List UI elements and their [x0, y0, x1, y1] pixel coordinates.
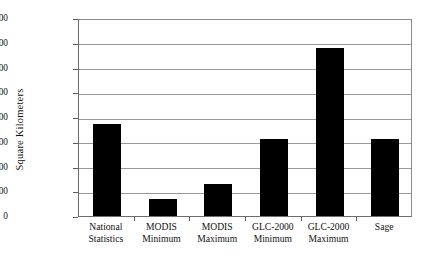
- y-axis-tick-label: 6000000: [0, 64, 8, 73]
- bar: [316, 48, 344, 216]
- x-axis-category-label-line: Maximum: [301, 233, 357, 245]
- x-axis-category-label-line: Minimum: [245, 233, 301, 245]
- y-axis-tick-label: 5000000: [0, 88, 8, 97]
- x-axis-category-label-line: Minimum: [134, 233, 190, 245]
- y-axis-tick-label: 4000000: [0, 113, 8, 122]
- y-axis-tick-label: 3000000: [0, 138, 8, 147]
- x-axis-category-label-line: Sage: [356, 221, 412, 233]
- plot-area: [78, 19, 412, 217]
- bar: [149, 199, 177, 216]
- x-axis-category-label: GLC-2000Maximum: [301, 221, 357, 244]
- y-axis-tick-label: 8000000: [0, 14, 8, 23]
- bar: [204, 184, 232, 216]
- y-axis-tick-mark: [73, 217, 78, 218]
- x-axis-category-label-line: GLC-2000: [245, 221, 301, 233]
- x-axis-category-label-line: GLC-2000: [301, 221, 357, 233]
- gridline: [79, 143, 411, 144]
- bar: [260, 139, 288, 216]
- x-axis-category-label-line: Statistics: [78, 233, 134, 245]
- gridline: [79, 168, 411, 169]
- y-axis-tick-label: 0: [0, 212, 8, 221]
- y-axis-tick-label: 2000000: [0, 163, 8, 172]
- gridline: [79, 193, 411, 194]
- x-axis-category-label-line: National: [78, 221, 134, 233]
- x-axis-category-label: GLC-2000Minimum: [245, 221, 301, 244]
- gridline: [79, 44, 411, 45]
- x-axis-category-label: MODISMaximum: [189, 221, 245, 244]
- x-axis-category-label-line: Maximum: [189, 233, 245, 245]
- gridline: [79, 119, 411, 120]
- gridline: [79, 94, 411, 95]
- bar: [371, 139, 399, 216]
- x-axis-category-label: MODISMinimum: [134, 221, 190, 244]
- bar: [93, 124, 121, 216]
- x-axis-category-label-line: MODIS: [134, 221, 190, 233]
- y-axis-tick-label: 1000000: [0, 187, 8, 196]
- gridline: [79, 69, 411, 70]
- x-axis-category-label: NationalStatistics: [78, 221, 134, 244]
- x-axis-category-label-line: MODIS: [189, 221, 245, 233]
- bar-chart-figure: Square Kilometers 8000000700000060000005…: [0, 0, 430, 259]
- y-axis-tick-label: 7000000: [0, 39, 8, 48]
- x-axis-category-label: Sage: [356, 221, 412, 233]
